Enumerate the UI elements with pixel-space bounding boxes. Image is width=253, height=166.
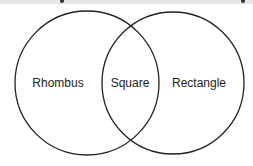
rhombus-label: Rhombus [32, 76, 83, 90]
rectangle-label: Rectangle [172, 76, 226, 90]
square-label: Square [111, 76, 150, 90]
venn-diagram: Rhombus Square Rectangle [0, 0, 253, 166]
